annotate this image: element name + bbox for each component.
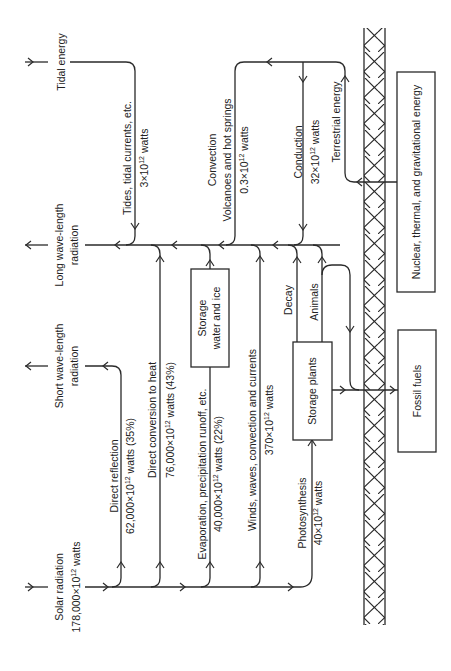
nuclear-energy-box: Nuclear, thermal, and gravitational ener… bbox=[397, 72, 435, 292]
svg-text:radiation: radiation bbox=[68, 346, 80, 386]
terrestrial-energy-label: Terrestrial energy bbox=[330, 81, 342, 163]
storage-water-label-2: water and ice bbox=[210, 287, 222, 351]
storage-water-label-1: Storage bbox=[196, 299, 208, 336]
decay-label: Decay bbox=[282, 284, 294, 315]
storage-plants-box: Storage plants bbox=[293, 342, 332, 440]
svg-text:radiation: radiation bbox=[68, 225, 80, 265]
energy-flow-diagram: Storage water and ice Storage plants Fos… bbox=[0, 0, 451, 671]
svg-text:0.3×1012 watts: 0.3×1012 watts bbox=[238, 126, 250, 194]
conduction-label: Conduction 32×1012 watts bbox=[292, 120, 321, 185]
svg-text:Winds, waves, convection and c: Winds, waves, convection and currents bbox=[246, 349, 258, 531]
long-wave-label: Long wave-length radiation bbox=[53, 203, 80, 286]
svg-text:Solar radiation: Solar radiation bbox=[53, 553, 65, 621]
direct-conversion-label: Direct conversion to heat 76,000×1012 wa… bbox=[146, 362, 176, 478]
svg-text:Tidal energy: Tidal energy bbox=[55, 33, 67, 91]
svg-text:Long wave-length: Long wave-length bbox=[53, 203, 65, 286]
svg-text:Direct conversion to heat: Direct conversion to heat bbox=[146, 362, 158, 478]
svg-text:178,000×1012 watts: 178,000×1012 watts bbox=[70, 541, 82, 632]
nuclear-energy-label: Nuclear, thermal, and gravitational ener… bbox=[410, 84, 422, 279]
svg-text:Volcanoes and hot springs: Volcanoes and hot springs bbox=[221, 98, 233, 221]
fossil-fuels-box: Fossil fuels bbox=[398, 330, 436, 452]
svg-text:Convection: Convection bbox=[206, 134, 218, 187]
svg-text:Photosynthesis: Photosynthesis bbox=[296, 477, 308, 548]
svg-text:3×1012 watts: 3×1012 watts bbox=[138, 129, 150, 188]
direct-reflection-label: Direct reflection 62,000×1012 watts (35%… bbox=[108, 418, 136, 534]
svg-text:Animals: Animals bbox=[308, 283, 320, 320]
convection-label: Convection Volcanoes and hot springs 0.3… bbox=[206, 98, 250, 221]
svg-text:Terrestrial energy: Terrestrial energy bbox=[330, 81, 342, 163]
tidal-energy-label: Tidal energy bbox=[55, 33, 67, 91]
photosynthesis-label: Photosynthesis 40×1012 watts bbox=[296, 477, 324, 548]
svg-text:Tides, tidal currents, etc.: Tides, tidal currents, etc. bbox=[121, 101, 133, 215]
svg-text:32×1012 watts: 32×1012 watts bbox=[309, 120, 321, 185]
svg-text:370×1012 watts: 370×1012 watts bbox=[263, 385, 275, 456]
svg-text:62,000×1012 watts (35%): 62,000×1012 watts (35%) bbox=[124, 418, 136, 534]
svg-text:76,000×1012 watts (43%): 76,000×1012 watts (43%) bbox=[164, 362, 176, 478]
svg-text:Conduction: Conduction bbox=[292, 125, 304, 178]
svg-text:Short wave-length: Short wave-length bbox=[53, 324, 65, 409]
earth-crust-strip bbox=[364, 28, 385, 625]
short-wave-label: Short wave-length radiation bbox=[53, 324, 80, 409]
storage-water-box: Storage water and ice bbox=[191, 269, 229, 367]
solar-radiation-label: Solar radiation 178,000×1012 watts bbox=[53, 541, 82, 632]
svg-text:40×1012 watts: 40×1012 watts bbox=[312, 481, 324, 546]
svg-text:40,000×1012 watts (22%): 40,000×1012 watts (22%) bbox=[212, 416, 224, 532]
animals-label: Animals bbox=[308, 283, 320, 320]
svg-text:Decay: Decay bbox=[282, 284, 294, 315]
storage-plants-label: Storage plants bbox=[306, 357, 318, 425]
fossil-fuels-label: Fossil fuels bbox=[411, 365, 423, 418]
svg-text:Evaporation, precipitation run: Evaporation, precipitation runoff, etc. bbox=[196, 389, 208, 560]
svg-text:Direct reflection: Direct reflection bbox=[108, 439, 120, 512]
